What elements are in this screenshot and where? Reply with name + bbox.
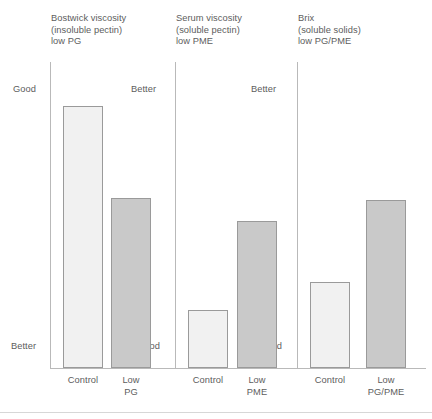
x-tick-label-g1-treatment: Low PG (95, 375, 167, 398)
bottom-divider (0, 412, 432, 413)
axis-annotation-better-group-1: Better (131, 84, 156, 94)
bar-g2-control (188, 310, 228, 368)
bar-g3-control (310, 282, 350, 368)
x-tick-label-g2-treatment: Low PME (221, 375, 293, 398)
chart-figure: Bostwick viscosity (insoluble pectin) lo… (0, 0, 432, 419)
axis-line-group-3 (297, 62, 298, 368)
axis-annotation-better-bottom-left: Better (11, 341, 36, 351)
axis-line-group-1 (50, 62, 51, 368)
bar-g3-treatment (366, 200, 406, 368)
group-title-bostwick-viscosity: Bostwick viscosity (insoluble pectin) lo… (51, 13, 126, 48)
axis-line-group-2 (175, 62, 176, 368)
axis-annotation-good-top-left: Good (13, 84, 36, 94)
group-title-serum-viscosity: Serum viscosity (soluble pectin) low PME (176, 13, 242, 48)
bar-g1-control (63, 106, 103, 368)
bar-g2-treatment (237, 221, 277, 368)
bar-g1-treatment (111, 198, 151, 368)
x-tick-label-g3-treatment: Low PG/PME (350, 375, 422, 398)
axis-annotation-better-group-2: Better (251, 84, 276, 94)
group-title-brix: Brix (soluble solids) low PG/PME (298, 13, 361, 48)
x-axis-baseline (50, 368, 426, 369)
